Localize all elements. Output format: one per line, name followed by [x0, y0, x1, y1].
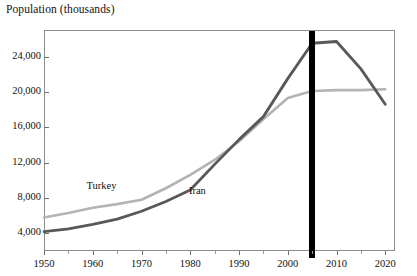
y-axis-label-text: 4,000 [1, 226, 41, 237]
y-axis-tick [44, 57, 49, 58]
x-axis-tick [239, 251, 240, 255]
x-axis-label: 2000 [266, 258, 310, 272]
y-axis-label-text: 8,000 [1, 191, 41, 202]
x-axis-tick [288, 251, 289, 255]
y-axis-tick [44, 92, 49, 93]
y-axis-label: 20,000 [0, 85, 41, 97]
series-label-iran: Iran [189, 185, 206, 196]
x-axis-tick [93, 251, 94, 255]
population-line-chart: Population (thousands) Turkey Iran 4,000… [0, 0, 417, 276]
x-axis-minor-tick [117, 251, 118, 254]
y-axis-label: 4,000 [0, 226, 41, 238]
x-axis-minor-tick [312, 251, 313, 254]
x-axis-label: 2010 [315, 258, 359, 272]
y-axis-label: 12,000 [0, 156, 41, 168]
y-axis-label: 8,000 [0, 191, 41, 203]
x-axis-tick [190, 251, 191, 255]
x-axis-label-text: 1980 [168, 258, 212, 269]
series-label-turkey: Turkey [87, 180, 117, 191]
x-axis-label-text: 2000 [266, 258, 310, 269]
x-axis-label: 2020 [363, 258, 407, 272]
x-axis-label-text: 1990 [217, 258, 261, 269]
y-axis-label-text: 24,000 [1, 50, 41, 61]
x-axis-tick [142, 251, 143, 255]
x-axis-minor-tick [68, 251, 69, 254]
y-axis-label: 24,000 [0, 50, 41, 62]
x-axis-label: 1990 [217, 258, 261, 272]
x-axis-label: 1960 [71, 258, 115, 272]
x-axis-tick [385, 251, 386, 255]
x-axis-label: 1950 [22, 258, 66, 272]
x-axis-label-text: 1960 [71, 258, 115, 269]
x-axis-label-text: 2010 [315, 258, 359, 269]
x-axis-label-text: 2020 [363, 258, 407, 269]
y-axis-tick [44, 163, 49, 164]
series-layer [44, 30, 395, 251]
y-axis-label-text: 12,000 [1, 156, 41, 167]
x-axis-label: 1980 [168, 258, 212, 272]
y-axis-label-text: 20,000 [1, 85, 41, 96]
x-axis-tick [337, 251, 338, 255]
x-axis-minor-tick [215, 251, 216, 254]
x-axis-minor-tick [263, 251, 264, 254]
y-axis-label: 16,000 [0, 120, 41, 132]
chart-title: Population (thousands) [6, 3, 115, 15]
x-axis-label: 1970 [120, 258, 164, 272]
year-marker-2005-bar [309, 31, 315, 258]
x-axis-label-text: 1970 [120, 258, 164, 269]
y-axis-tick [44, 233, 49, 234]
series-line-turkey [44, 89, 385, 217]
y-axis-tick [44, 127, 49, 128]
y-axis-label-text: 16,000 [1, 120, 41, 131]
x-axis-minor-tick [166, 251, 167, 254]
x-axis-tick [44, 251, 45, 255]
x-axis-minor-tick [361, 251, 362, 254]
series-line-iran [44, 41, 385, 231]
x-axis-label-text: 1950 [22, 258, 66, 269]
y-axis-tick [44, 198, 49, 199]
